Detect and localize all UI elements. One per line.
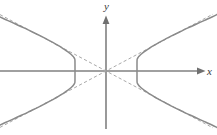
hyperbola-figure: y x <box>0 0 217 135</box>
y-axis-arrowhead <box>103 16 110 25</box>
x-axis-arrowhead <box>197 68 206 75</box>
x-axis-label: x <box>207 66 212 77</box>
plot-canvas <box>0 0 217 135</box>
y-axis-label: y <box>104 1 109 12</box>
axes-group <box>0 16 206 130</box>
